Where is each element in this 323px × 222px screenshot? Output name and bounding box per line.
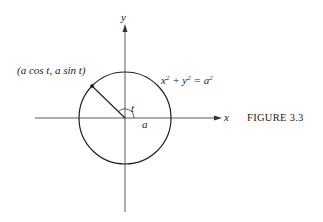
radius-line xyxy=(92,86,125,118)
circle-equation: x2 + y2 = a2 xyxy=(161,75,213,86)
x-axis-label: x xyxy=(224,112,229,123)
y-axis-arrow-icon xyxy=(123,24,128,32)
y-axis-label: y xyxy=(121,12,126,23)
radius-label: a xyxy=(142,119,148,130)
point-label: (a cos t, a sin t) xyxy=(17,65,85,76)
point-marker xyxy=(90,84,94,88)
x-axis-arrow-icon xyxy=(214,116,222,121)
figure-caption: FIGURE 3.3 xyxy=(247,113,304,124)
diagram-canvas xyxy=(0,0,323,222)
angle-label: t xyxy=(131,103,134,114)
